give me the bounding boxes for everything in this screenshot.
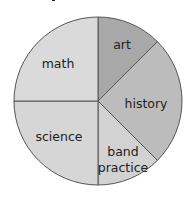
- pie-chart: art history band practice science math: [0, 0, 192, 199]
- label-science: science: [35, 129, 82, 144]
- label-math: math: [42, 56, 75, 71]
- label-art: art: [113, 37, 131, 52]
- label-practice: practice: [98, 160, 149, 175]
- label-history: history: [125, 96, 169, 111]
- label-band: band: [107, 144, 138, 159]
